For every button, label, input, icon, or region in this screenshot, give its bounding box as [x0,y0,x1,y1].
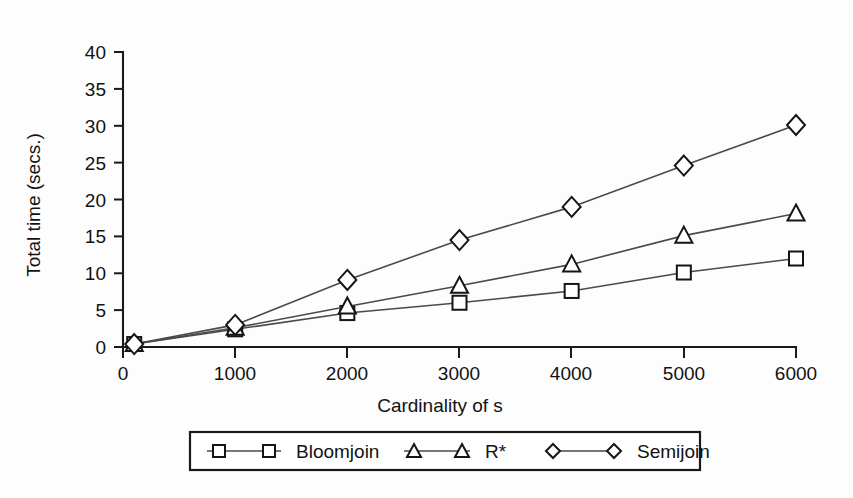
series-layer [125,115,805,354]
legend-label: R* [485,441,507,462]
chart-figure: Total time (secs.) 40 35 30 25 20 15 10 … [0,0,853,498]
legend-label: Bloomjoin [296,441,379,462]
y-tick-label: 10 [85,263,106,284]
x-axis-ticks [123,347,796,358]
x-tick-label: 6000 [775,363,817,384]
y-tick-label: 5 [95,300,106,321]
chart-legend: Bloomjoin R* Semijoin [190,432,710,470]
y-tick-label: 30 [85,116,106,137]
series-bloomjoin [127,252,803,352]
y-axis-tick-labels: 40 35 30 25 20 15 10 5 0 [85,42,106,358]
line-chart: Total time (secs.) 40 35 30 25 20 15 10 … [0,0,853,498]
series-line [134,125,796,344]
x-tick-label: 1000 [214,363,256,384]
x-tick-label: 2000 [326,363,368,384]
square-marker-icon [263,445,275,457]
y-tick-label: 20 [85,190,106,211]
x-tick-label: 5000 [663,363,705,384]
square-marker-icon [565,284,579,298]
square-marker-icon [453,296,467,310]
x-tick-label: 4000 [550,363,592,384]
series-semijoin [125,115,805,354]
diamond-marker-icon [787,115,805,135]
x-tick-label: 0 [118,363,129,384]
y-axis-ticks [114,52,123,347]
y-tick-label: 40 [85,42,106,63]
square-marker-icon [677,266,691,280]
y-tick-label: 15 [85,226,106,247]
legend-label: Semijoin [637,441,710,462]
x-axis-title: Cardinality of s [377,395,503,416]
diamond-marker-icon [451,230,469,250]
x-axis-tick-labels: 0 1000 2000 3000 4000 5000 6000 [118,363,817,384]
triangle-marker-icon [788,205,805,221]
y-axis-title: Total time (secs.) [23,133,44,277]
y-tick-label: 35 [85,79,106,100]
square-marker-icon [789,252,803,266]
diamond-marker-icon [563,197,581,217]
y-tick-label: 25 [85,153,106,174]
diamond-marker-icon [338,270,356,290]
x-tick-label: 3000 [438,363,480,384]
y-tick-label: 0 [95,337,106,358]
diamond-marker-icon [675,156,693,176]
series-r- [126,205,805,352]
square-marker-icon [213,445,225,457]
